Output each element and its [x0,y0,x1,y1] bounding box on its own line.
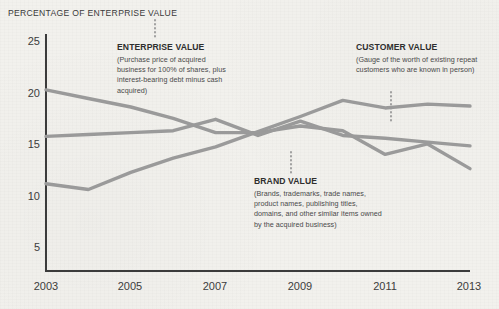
annotation-brand-body: (Brands, trademarks, trade names, produc… [254,189,388,230]
annotation-enterprise-body: (Purchase price of acquired business for… [117,55,235,96]
y-axis-tick-5: 5 [14,241,40,253]
x-axis-tick-2009: 2009 [272,280,328,292]
x-axis-tick-2011: 2011 [357,280,413,292]
y-axis-tick-20: 20 [14,87,40,99]
annotation-brand-title: BRAND VALUE [254,176,388,186]
x-axis-tick-2003: 2003 [18,280,74,292]
annotation-customer-title: CUSTOMER VALUE [356,42,478,52]
series-line-enterprise-value [46,90,470,169]
x-axis-tick-2007: 2007 [187,280,243,292]
annotation-customer-body: (Gauge of the worth of existing repeat c… [356,55,478,75]
data-series-group [46,90,470,190]
x-axis-tick-2013: 2013 [441,280,497,292]
chart-root: PERCENTAGE OF ENTERPRISE VALUE 25 20 15 … [0,0,499,309]
annotation-brand-value: BRAND VALUE (Brands, trademarks, trade n… [254,176,388,230]
x-axis-tick-2005: 2005 [102,280,158,292]
y-axis-tick-15: 15 [14,138,40,150]
y-axis-tick-10: 10 [14,190,40,202]
annotation-customer-value: CUSTOMER VALUE (Gauge of the worth of ex… [356,42,478,75]
annotation-enterprise-value: ENTERPRISE VALUE (Purchase price of acqu… [117,42,235,96]
annotation-enterprise-title: ENTERPRISE VALUE [117,42,235,52]
y-axis-tick-25: 25 [14,35,40,47]
